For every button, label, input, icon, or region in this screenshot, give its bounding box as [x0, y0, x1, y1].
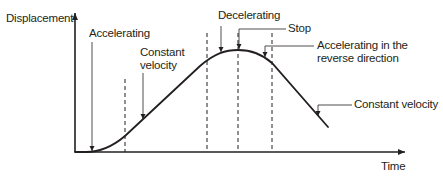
- label-accelerating-reverse-line2: reverse direction: [317, 52, 399, 65]
- pointer-constant-velocity-2: [318, 105, 352, 116]
- label-decelerating: Decelerating: [218, 9, 280, 22]
- diagram-canvas: [0, 0, 443, 179]
- label-constant-velocity-1-line2: velocity: [140, 59, 177, 72]
- label-stop: Stop: [288, 22, 311, 35]
- y-axis-label: Displacement: [6, 12, 73, 25]
- label-accelerating: Accelerating: [89, 27, 150, 40]
- label-accelerating-reverse-line1: Accelerating in the: [317, 39, 408, 52]
- label-constant-velocity-1-line1: Constant: [140, 46, 184, 59]
- x-axis-label: Time: [381, 160, 405, 173]
- displacement-curve: [75, 50, 328, 152]
- label-constant-velocity-2: Constant velocity: [354, 98, 438, 111]
